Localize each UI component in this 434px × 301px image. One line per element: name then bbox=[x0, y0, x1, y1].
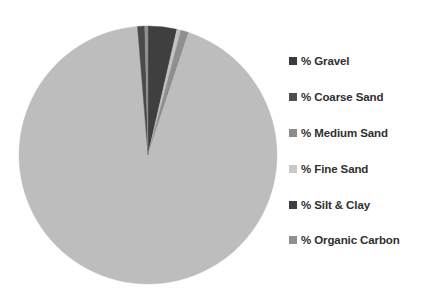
legend-swatch-icon bbox=[289, 129, 297, 137]
legend-swatch-icon bbox=[289, 165, 297, 173]
legend-item-3[interactable]: % Medium Sand bbox=[289, 126, 388, 140]
legend-swatch-icon bbox=[289, 57, 297, 65]
legend-item-1[interactable]: % Gravel bbox=[289, 54, 349, 68]
legend-swatch-icon bbox=[289, 236, 297, 244]
legend-item-label: % Silt & Clay bbox=[301, 199, 370, 212]
legend-swatch-icon bbox=[289, 201, 297, 209]
legend-item-5[interactable]: % Silt & Clay bbox=[289, 198, 370, 212]
legend-item-4[interactable]: % Fine Sand bbox=[289, 162, 368, 176]
legend-item-label: % Fine Sand bbox=[301, 163, 368, 176]
chart-legend: % Gravel% Coarse Sand% Medium Sand% Fine… bbox=[289, 46, 434, 261]
legend-item-2[interactable]: % Coarse Sand bbox=[289, 90, 383, 104]
pie-plot-area bbox=[0, 0, 290, 301]
legend-item-label: % Medium Sand bbox=[301, 127, 388, 140]
pie-svg bbox=[0, 0, 290, 301]
legend-swatch-icon bbox=[289, 93, 297, 101]
legend-item-label: % Organic Carbon bbox=[301, 234, 400, 247]
legend-item-label: % Coarse Sand bbox=[301, 91, 383, 104]
pie-chart-figure: % Gravel% Coarse Sand% Medium Sand% Fine… bbox=[0, 0, 434, 301]
legend-item-6[interactable]: % Organic Carbon bbox=[289, 233, 400, 247]
legend-item-label: % Gravel bbox=[301, 55, 349, 68]
pie-slice-group bbox=[19, 26, 277, 284]
